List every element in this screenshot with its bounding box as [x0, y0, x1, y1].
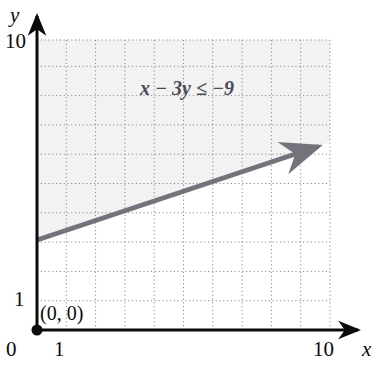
origin-dot [32, 325, 43, 336]
plot-canvas: y x 10 1 1 10 0 (0, 0) x − 3y ≤ −9 [0, 0, 380, 380]
origin-point-label: (0, 0) [40, 302, 83, 325]
inequality-annotation: x − 3y ≤ −9 [139, 77, 234, 100]
y-tick-label-1: 1 [14, 287, 25, 311]
y-tick-label-10: 10 [5, 29, 26, 53]
inequality-graph-figure: y x 10 1 1 10 0 (0, 0) x − 3y ≤ −9 [0, 0, 380, 380]
y-axis-label: y [8, 3, 20, 27]
origin-tick-label: 0 [6, 337, 17, 361]
x-axis-label: x [361, 337, 372, 361]
x-tick-label-1: 1 [54, 337, 65, 361]
x-tick-label-10: 10 [313, 337, 334, 361]
